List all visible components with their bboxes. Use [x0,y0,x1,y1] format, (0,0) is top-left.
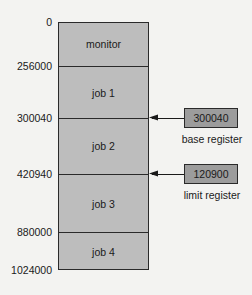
address-label-420940: 420940 [17,168,52,180]
segment-divider [58,232,149,233]
address-label-880000: 880000 [17,226,52,238]
segment-divider [58,118,149,119]
limit-register-box: 120900 [184,164,238,184]
segment-job-1: job 1 [58,87,149,99]
segment-monitor: monitor [58,38,149,50]
segment-divider [58,174,149,175]
arrowhead-icon [149,171,158,177]
segment-divider [58,66,149,67]
limit-register-label: limit register [176,189,248,201]
base-register-box: 300040 [184,108,238,128]
address-label-1024000: 1024000 [11,264,52,276]
segment-job-2: job 2 [58,140,149,152]
address-label-256000: 256000 [17,60,52,72]
segment-job-4: job 4 [58,246,149,258]
address-label-0: 0 [46,16,52,28]
segment-job-3: job 3 [58,198,149,210]
address-label-300040: 300040 [17,112,52,124]
base-register-label: base register [176,133,248,145]
arrowhead-icon [149,115,158,121]
